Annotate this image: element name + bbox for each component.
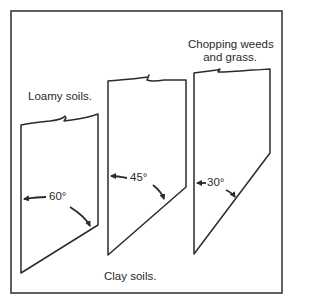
label-chopping-weeds-line1: Chopping weeds <box>188 38 272 51</box>
blade-weeds <box>194 69 270 254</box>
label-chopping-weeds: Chopping weeds and grass. <box>188 38 272 64</box>
angle-label-60: 60° <box>49 190 66 202</box>
blade-clay <box>108 75 186 255</box>
label-chopping-weeds-line2: and grass. <box>188 51 272 64</box>
label-clay-soils: Clay soils. <box>104 270 156 283</box>
label-loamy-soils: Loamy soils. <box>28 90 92 103</box>
angle-label-45: 45° <box>130 171 147 183</box>
angle-label-30: 30° <box>207 176 224 188</box>
